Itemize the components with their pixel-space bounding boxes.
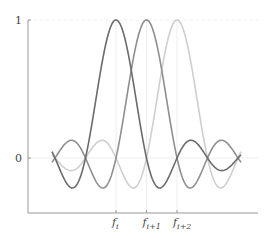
y-tick-label: 0 [15, 152, 22, 165]
x-tick-label: fi [111, 216, 119, 231]
y-tick-labels: 10 [15, 14, 31, 165]
x-tick-label: fi+2 [172, 216, 191, 231]
x-tick-label: fi+1 [142, 216, 161, 231]
y-tick-label: 1 [15, 14, 22, 27]
guide-lines [28, 20, 258, 213]
sinc-subcarrier-chart: 10 fifi+1fi+2 [0, 0, 279, 240]
